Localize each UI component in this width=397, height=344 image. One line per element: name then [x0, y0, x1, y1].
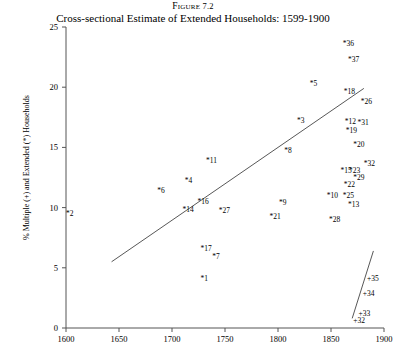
data-point-label: +32	[353, 317, 365, 325]
data-point-label: +35	[367, 275, 379, 283]
data-point-label: *5	[310, 80, 318, 88]
y-tick-label: 15	[36, 142, 58, 152]
data-point-label: *37	[348, 56, 359, 64]
x-tick-label: 1850	[311, 334, 351, 344]
data-point-label: *32	[364, 160, 375, 168]
x-tick-label: 1750	[205, 334, 245, 344]
x-tick-label: 1650	[99, 334, 139, 344]
x-tick-label: 1800	[258, 334, 298, 344]
x-tick-label: 1700	[152, 334, 192, 344]
y-tick-label: 20	[36, 82, 58, 92]
data-point-label: +34	[363, 290, 375, 298]
axis-lines	[66, 27, 384, 328]
x-tick-label: 1600	[46, 334, 86, 344]
data-point-label: *8	[284, 147, 292, 155]
data-point-label: *1	[201, 275, 209, 283]
data-point-label: *3	[297, 117, 305, 125]
x-axis-ticks	[66, 328, 384, 332]
data-point-label: *2	[66, 210, 74, 218]
data-point-label: *10	[327, 192, 338, 200]
data-point-label: *21	[270, 213, 281, 221]
extended-trend-line	[112, 88, 364, 261]
y-tick-label: 25	[36, 22, 58, 32]
data-point-label: *27	[219, 207, 230, 215]
data-point-label: *22	[344, 181, 355, 189]
y-tick-label: 5	[36, 263, 58, 273]
data-point-label: *28	[329, 216, 340, 224]
y-tick-label: 0	[36, 323, 58, 333]
data-point-label: *4	[185, 177, 193, 185]
data-point-label: *11	[206, 157, 217, 165]
data-point-label: *14	[183, 206, 194, 214]
data-point-label: *31	[358, 119, 369, 127]
x-tick-label: 1900	[364, 334, 397, 344]
data-point-label: *36	[343, 40, 354, 48]
data-point-label: *6	[157, 187, 165, 195]
data-point-label: *12	[345, 118, 356, 126]
data-point-label: *13	[348, 201, 359, 209]
y-axis-ticks	[62, 27, 66, 328]
data-point-label: *7	[212, 253, 220, 261]
data-point-label: *18	[344, 88, 355, 96]
y-tick-label: 10	[36, 203, 58, 213]
data-point-label: *16	[197, 198, 208, 206]
data-point-label: *9	[279, 199, 287, 207]
data-point-label: *19	[346, 127, 357, 135]
data-point-label: *17	[201, 245, 212, 253]
data-point-label: *25	[343, 192, 354, 200]
data-point-label: *20	[353, 141, 364, 149]
data-point-label: *26	[361, 98, 372, 106]
trend-lines	[112, 88, 374, 318]
